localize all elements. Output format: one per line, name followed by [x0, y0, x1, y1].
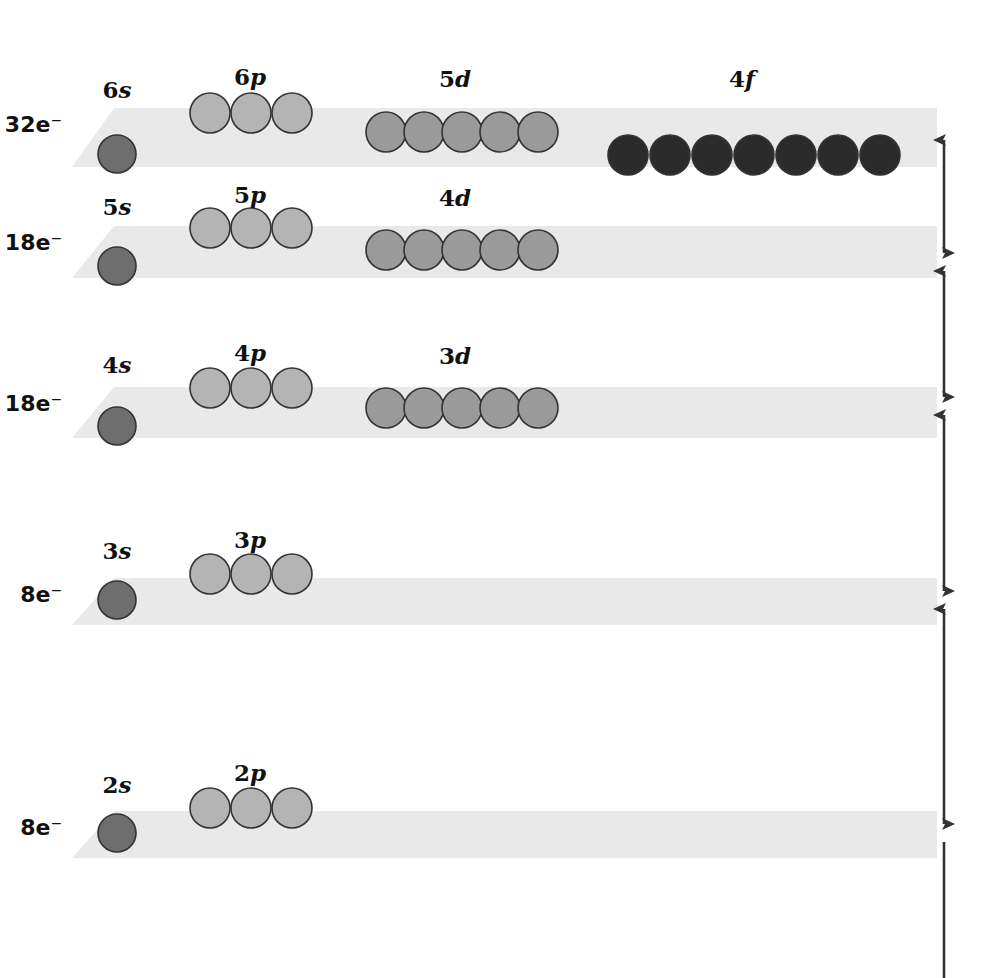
orbital-4d [480, 230, 520, 270]
subshell-label-5d: 5d [439, 65, 471, 92]
orbital-3p [231, 554, 271, 594]
orbital-4p [272, 368, 312, 408]
orbital-4f [608, 135, 648, 175]
orbital-4p [190, 368, 230, 408]
orbital-5d [518, 112, 558, 152]
orbital-5p [190, 208, 230, 248]
orbital-3s [98, 581, 136, 619]
orbital-6p [190, 93, 230, 133]
orbital-energy-diagram: 32e⁻6s6p5d4f18e⁻5s5p4d18e⁻4s4p3d8e⁻3s3p8… [0, 0, 988, 978]
subshell-label-4s: 4s [103, 351, 132, 378]
orbital-6s [98, 135, 136, 173]
subshell-label-2s: 2s [103, 771, 132, 798]
electron-capacity-label-shell-3: 8e⁻ [20, 582, 62, 607]
diagram-canvas: 32e⁻6s6p5d4f18e⁻5s5p4d18e⁻4s4p3d8e⁻3s3p8… [0, 0, 988, 978]
orbital-4d [518, 230, 558, 270]
orbital-3d [518, 388, 558, 428]
orbital-4f [860, 135, 900, 175]
orbital-4d [404, 230, 444, 270]
orbital-2s [98, 814, 136, 852]
subshell-label-4d: 4d [439, 184, 471, 211]
orbital-3d [442, 388, 482, 428]
orbital-4f [650, 135, 690, 175]
orbital-4s [98, 407, 136, 445]
orbital-3d [480, 388, 520, 428]
orbital-4d [366, 230, 406, 270]
orbital-4f [734, 135, 774, 175]
orbital-3d [366, 388, 406, 428]
orbital-4f [818, 135, 858, 175]
subshell-label-3s: 3s [103, 537, 132, 564]
orbital-3p [190, 554, 230, 594]
subshell-label-6s: 6s [103, 76, 132, 103]
subshell-label-6p: 6p [234, 63, 266, 90]
electron-capacity-label-shell-5: 18e⁻ [5, 230, 62, 255]
electron-capacity-label-shell-2: 8e⁻ [20, 815, 62, 840]
orbital-5s [98, 247, 136, 285]
orbital-4f [692, 135, 732, 175]
orbital-5d [480, 112, 520, 152]
orbitals-layer [98, 93, 900, 852]
subshell-label-3p: 3p [234, 526, 266, 553]
subshell-label-4p: 4p [234, 339, 266, 366]
subshell-label-5p: 5p [234, 181, 266, 208]
orbital-2p [272, 788, 312, 828]
orbital-5p [272, 208, 312, 248]
orbital-4f [776, 135, 816, 175]
orbital-4p [231, 368, 271, 408]
orbital-5d [404, 112, 444, 152]
orbital-5p [231, 208, 271, 248]
electron-capacity-label-shell-6: 32e⁻ [5, 112, 62, 137]
subshell-label-2p: 2p [234, 759, 266, 786]
orbital-6p [272, 93, 312, 133]
orbital-5d [442, 112, 482, 152]
orbital-4d [442, 230, 482, 270]
orbital-6p [231, 93, 271, 133]
orbital-2p [190, 788, 230, 828]
orbital-5d [366, 112, 406, 152]
subshell-label-5s: 5s [103, 193, 132, 220]
electron-capacity-label-shell-4: 18e⁻ [5, 391, 62, 416]
labels-layer: 32e⁻6s6p5d4f18e⁻5s5p4d18e⁻4s4p3d8e⁻3s3p8… [5, 63, 759, 840]
subshell-label-3d: 3d [439, 342, 471, 369]
orbital-3d [404, 388, 444, 428]
orbital-2p [231, 788, 271, 828]
subshell-label-4f: 4f [729, 65, 759, 92]
orbital-3p [272, 554, 312, 594]
